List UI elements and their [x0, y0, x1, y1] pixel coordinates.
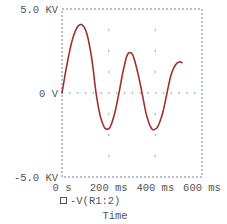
chart: 5.0 KV 0 V -5.0 KV 0 s 200 ms 400 ms 600…: [0, 0, 227, 224]
zero-line: [69, 92, 195, 94]
x-tick-600: 600 ms: [183, 182, 221, 194]
x-tick-400: 400 ms: [136, 182, 174, 194]
series-line: [62, 25, 182, 130]
x-tick-0: 0 s: [53, 182, 72, 194]
y-tick-zero: 0 V: [39, 88, 59, 100]
y-tick-top: 5.0 KV: [20, 4, 59, 16]
x-tick-200: 200 ms: [90, 182, 128, 194]
legend-label: -V(R1:2): [70, 195, 120, 207]
legend-square-icon: [61, 198, 67, 204]
x-axis-label: Time: [102, 210, 127, 222]
